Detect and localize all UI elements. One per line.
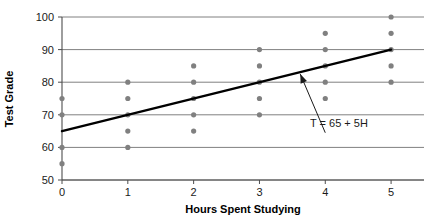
data-point xyxy=(323,47,328,52)
y-tick-label-50: 50 xyxy=(42,174,54,186)
annotation-text: T = 65 + 5H xyxy=(310,117,368,129)
data-point xyxy=(388,80,393,85)
data-point xyxy=(191,112,196,117)
data-point xyxy=(257,112,262,117)
data-point xyxy=(323,31,328,36)
y-tick-label-90: 90 xyxy=(42,44,54,56)
y-axis-title: Test Grade xyxy=(3,71,15,128)
y-tick-label-70: 70 xyxy=(42,109,54,121)
x-tick-label-1: 1 xyxy=(125,186,131,198)
data-point xyxy=(323,80,328,85)
data-point xyxy=(191,129,196,134)
data-point xyxy=(59,112,64,117)
scatter-plot-svg: 012345 5060708090100 T = 65 + 5H Hours S… xyxy=(0,0,443,224)
x-tick-label-0: 0 xyxy=(59,186,65,198)
x-tick-label-5: 5 xyxy=(388,186,394,198)
data-point xyxy=(59,145,64,150)
y-tick-label-80: 80 xyxy=(42,76,54,88)
data-point xyxy=(59,161,64,166)
data-point xyxy=(323,96,328,101)
data-point xyxy=(388,14,393,19)
y-tick-label-60: 60 xyxy=(42,141,54,153)
data-point xyxy=(191,63,196,68)
chart-background xyxy=(0,0,443,224)
x-tick-label-4: 4 xyxy=(322,186,328,198)
y-tick-label-100: 100 xyxy=(36,11,54,23)
data-point xyxy=(388,63,393,68)
data-point xyxy=(257,96,262,101)
chart-figure: 012345 5060708090100 T = 65 + 5H Hours S… xyxy=(0,0,443,224)
data-point xyxy=(257,63,262,68)
x-axis-title: Hours Spent Studying xyxy=(185,203,301,215)
data-point xyxy=(125,96,130,101)
x-tick-label-2: 2 xyxy=(191,186,197,198)
data-point xyxy=(125,129,130,134)
data-point xyxy=(191,80,196,85)
data-point xyxy=(388,31,393,36)
data-point xyxy=(59,96,64,101)
data-point xyxy=(257,47,262,52)
data-point xyxy=(125,80,130,85)
data-point xyxy=(125,145,130,150)
x-tick-label-3: 3 xyxy=(256,186,262,198)
